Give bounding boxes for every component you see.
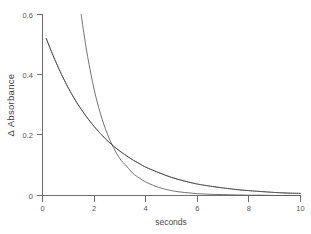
fast-decay-curve <box>81 15 300 196</box>
x-tick-label-3: 6 <box>195 204 199 213</box>
x-tick-label-2: 4 <box>144 204 148 213</box>
x-tick-label-4: 8 <box>247 204 251 213</box>
x-tick-label-5: 10 <box>296 204 304 213</box>
slow-decay-curve-base <box>46 39 300 194</box>
plot-canvas: 0.6 0.4 0.2 0 0 2 4 6 8 10 seconds Δ Abs… <box>0 0 311 234</box>
y-tick-marks <box>37 15 43 196</box>
x-tick-label-1: 2 <box>92 204 96 213</box>
y-tick-labels: 0.6 0.4 0.2 0 <box>23 11 33 201</box>
x-tick-labels: 0 2 4 6 8 10 <box>40 204 304 213</box>
y-axis-title: Δ Absorbance <box>5 74 16 137</box>
y-tick-label-3: 0.6 <box>23 11 33 20</box>
x-tick-label-0: 0 <box>40 204 44 213</box>
x-axis-title: seconds <box>155 217 187 227</box>
y-tick-label-2: 0.4 <box>23 71 33 80</box>
x-tick-marks <box>43 196 301 202</box>
y-tick-label-0: 0 <box>29 192 33 201</box>
chart-figure: 0.6 0.4 0.2 0 0 2 4 6 8 10 seconds Δ Abs… <box>0 0 311 234</box>
slow-decay-data-trace <box>46 39 300 194</box>
y-tick-label-1: 0.2 <box>23 131 33 140</box>
